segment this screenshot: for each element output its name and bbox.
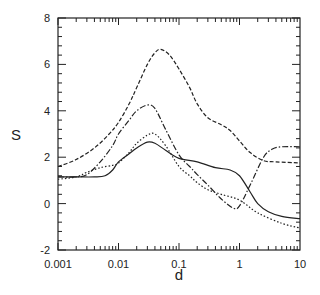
series-layer [58, 49, 300, 228]
x-tick-label: 0.001 [44, 258, 72, 270]
y-tick-label: 2 [44, 151, 50, 163]
series-dotted [58, 133, 300, 228]
y-tick-label: 6 [44, 58, 50, 70]
x-tick-label: 1 [236, 258, 242, 270]
x-axis-label: d [175, 266, 183, 283]
x-tick-label: 10 [294, 258, 306, 270]
line-chart: 0.0010.010.1110-202468 S d [0, 0, 320, 295]
y-tick-label: 8 [44, 12, 50, 24]
y-axis-label: S [11, 126, 21, 143]
series-dash-dot [58, 105, 300, 209]
y-tick-label: -2 [40, 244, 50, 256]
y-tick-label: 0 [44, 198, 50, 210]
axes: 0.0010.010.1110-202468 [40, 12, 306, 270]
plot-frame [58, 18, 300, 250]
series-dashed [58, 49, 300, 166]
series-solid [58, 142, 300, 219]
y-tick-label: 4 [44, 105, 50, 117]
x-tick-label: 0.01 [108, 258, 129, 270]
